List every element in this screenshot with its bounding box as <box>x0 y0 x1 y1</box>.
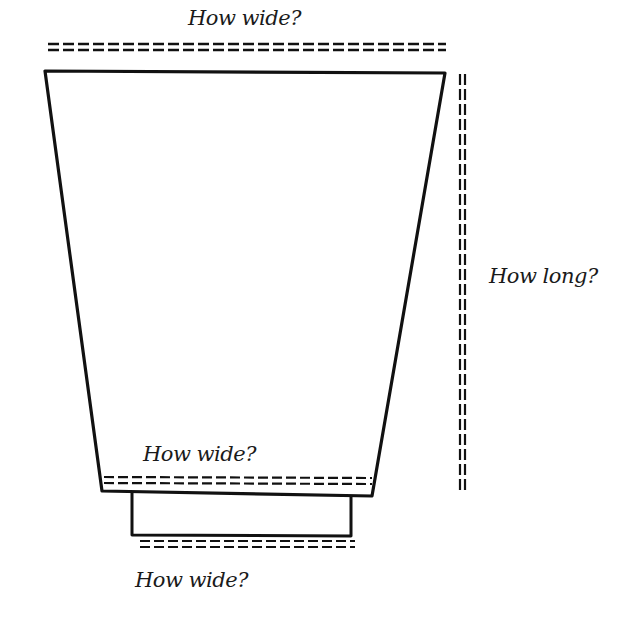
cuff-outline <box>132 491 351 536</box>
top-width-measure-line <box>48 44 446 50</box>
cuff-width-label: How wide? <box>135 568 248 592</box>
lower-width-measure-line <box>104 477 372 484</box>
lower-width-label: How wide? <box>143 442 256 466</box>
length-label: How long? <box>489 264 598 288</box>
cuff-width-measure-line <box>140 541 355 547</box>
length-measure-line <box>460 74 465 492</box>
sleeve-diagram <box>0 0 635 622</box>
sleeve-outline <box>45 71 445 496</box>
top-width-label: How wide? <box>188 6 301 30</box>
